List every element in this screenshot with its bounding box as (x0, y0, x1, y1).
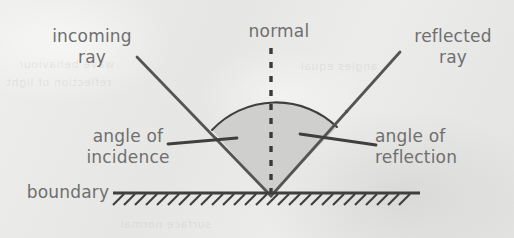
angle-of-reflection-label: angle of reflection (375, 126, 485, 168)
incoming-ray-label-line1: incoming (40, 26, 144, 47)
reflected-ray-label-line1: reflected (398, 26, 508, 47)
angle-of-incidence-label-line2: incidence (78, 147, 178, 168)
incoming-ray-label-line2: ray (40, 47, 144, 68)
angle-of-reflection-label-line1: angle of (375, 126, 485, 147)
reflected-ray-label: reflected ray (398, 26, 508, 68)
angle-wedge-shading (212, 102, 337, 196)
boundary-label: boundary (22, 182, 114, 203)
angle-of-reflection-label-line2: reflection (375, 147, 485, 168)
reflected-ray-label-line2: ray (398, 47, 508, 68)
incoming-ray-label: incoming ray (40, 26, 144, 68)
normal-label: normal (233, 21, 325, 42)
boundary-hatching (113, 194, 410, 205)
angle-of-incidence-label: angle of incidence (78, 126, 178, 168)
angle-of-incidence-label-line1: angle of (78, 126, 178, 147)
reflection-diagram-figure: wave behaviour reflection of light angle… (0, 0, 514, 238)
